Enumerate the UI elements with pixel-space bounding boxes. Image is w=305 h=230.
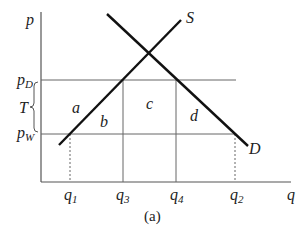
area-a-label: a xyxy=(72,99,80,116)
demand-label: D xyxy=(248,140,261,157)
tariff-label: T xyxy=(19,99,29,116)
q2-label: q2 xyxy=(230,186,244,205)
q1-label: q1 xyxy=(64,186,78,205)
figure-caption: (a) xyxy=(144,208,161,225)
world-price-label: pW xyxy=(16,124,35,143)
quantity-axis-label: q xyxy=(287,186,295,204)
supply-label: S xyxy=(186,9,194,26)
q3-label: q3 xyxy=(116,186,130,205)
area-d-label: d xyxy=(190,107,199,124)
area-b-label: b xyxy=(100,113,108,130)
domestic-price-label: pD xyxy=(16,71,33,90)
q4-label: q4 xyxy=(170,186,184,205)
price-axis-label: p xyxy=(25,11,34,29)
supply-curve xyxy=(59,20,181,145)
area-c-label: c xyxy=(146,95,153,112)
tariff-diagram: p q pD T pW q1 q3 q4 q2 S D a b c d (a) xyxy=(0,0,305,230)
